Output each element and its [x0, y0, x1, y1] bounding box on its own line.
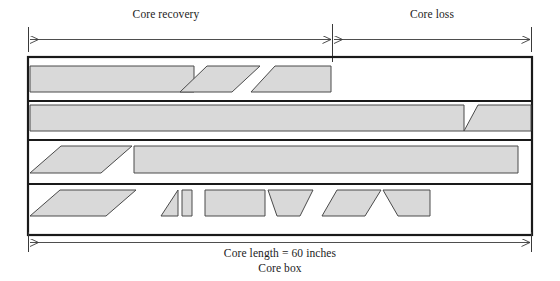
core-row-1 [30, 66, 331, 92]
piece-4-2 [161, 190, 178, 216]
piece-4-6 [322, 190, 381, 216]
piece-4-1 [30, 190, 136, 216]
piece-1-1 [30, 66, 194, 92]
core-recovery-label: Core recovery [0, 8, 332, 20]
piece-2-1 [30, 105, 464, 131]
core-box-label: Core box [0, 262, 560, 274]
piece-4-3 [182, 190, 192, 216]
core-loss-label: Core loss [332, 8, 532, 20]
piece-1-3 [251, 66, 331, 92]
figure-canvas [0, 0, 560, 281]
core-length-label: Core length = 60 inches [0, 247, 560, 259]
core-box-figure: Core recovery Core loss Core length = 60… [0, 0, 560, 281]
piece-2-2 [464, 105, 531, 131]
core-row-4 [30, 190, 430, 216]
piece-3-1 [30, 146, 132, 173]
piece-3-2 [134, 146, 518, 173]
piece-4-7 [383, 190, 430, 216]
core-row-2 [30, 105, 531, 131]
core-row-3 [30, 146, 518, 173]
piece-4-4 [205, 190, 265, 216]
piece-4-5 [268, 190, 313, 216]
